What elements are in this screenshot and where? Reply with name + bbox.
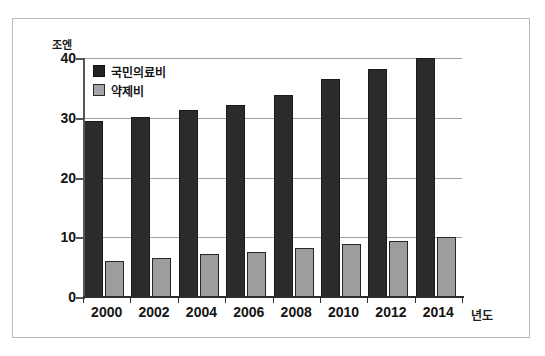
bar-national-medical-expense	[321, 79, 340, 297]
x-axis-line	[83, 296, 464, 298]
bar-drug-expense	[437, 237, 456, 297]
y-tick-mark	[76, 297, 83, 299]
y-tick-label: 40	[46, 51, 76, 65]
chart-legend: 국민의료비 약제비	[93, 62, 198, 100]
bar-national-medical-expense	[274, 95, 293, 297]
y-tick: 10	[36, 230, 76, 244]
legend-swatch-icon	[93, 65, 105, 77]
x-tick-mark	[130, 297, 131, 303]
chart-figure: 조엔 년도 국민의료비 약제비 010203040200020022004200…	[0, 0, 545, 356]
bar-drug-expense	[295, 248, 314, 297]
x-tick-label: 2012	[366, 304, 416, 320]
legend-label: 약제비	[111, 82, 144, 99]
bar-national-medical-expense	[368, 69, 387, 297]
y-tick-mark	[76, 58, 83, 60]
bar-drug-expense	[389, 241, 408, 297]
x-tick-label: 2010	[319, 304, 369, 320]
x-tick-mark	[320, 297, 321, 303]
y-tick-label: 30	[46, 111, 76, 125]
x-tick-label: 2008	[271, 304, 321, 320]
bar-national-medical-expense	[131, 117, 150, 297]
y-tick-label: 20	[46, 171, 76, 185]
x-tick-label: 2006	[224, 304, 274, 320]
x-tick-mark	[415, 297, 416, 303]
x-tick-label: 2004	[176, 304, 226, 320]
legend-swatch-icon	[93, 84, 105, 96]
x-tick-mark	[178, 297, 179, 303]
y-tick-label: 10	[46, 230, 76, 244]
legend-item-national-medical-expense: 국민의료비	[93, 62, 198, 80]
bar-national-medical-expense	[226, 105, 245, 297]
x-tick-mark	[367, 297, 368, 303]
bar-drug-expense	[152, 258, 171, 297]
x-tick-label: 2014	[413, 304, 463, 320]
legend-item-drug-expense: 약제비	[93, 81, 198, 99]
bar-drug-expense	[247, 252, 266, 297]
y-tick-label: 0	[46, 290, 76, 304]
y-tick: 30	[36, 111, 76, 125]
x-tick-mark	[462, 297, 463, 303]
x-tick-mark	[225, 297, 226, 303]
y-tick: 20	[36, 171, 76, 185]
x-tick-mark	[83, 297, 84, 303]
y-tick: 40	[36, 51, 76, 65]
x-tick-mark	[273, 297, 274, 303]
y-gridline	[83, 58, 462, 59]
y-axis-line	[83, 58, 85, 299]
bar-national-medical-expense	[84, 121, 103, 297]
bar-national-medical-expense	[179, 110, 198, 297]
bar-drug-expense	[200, 254, 219, 297]
bar-drug-expense	[342, 244, 361, 297]
y-tick: 0	[36, 290, 76, 304]
legend-label: 국민의료비	[111, 63, 166, 80]
x-tick-label: 2002	[129, 304, 179, 320]
bar-drug-expense	[105, 261, 124, 297]
x-tick-label: 2000	[82, 304, 132, 320]
y-tick-mark	[76, 237, 83, 239]
x-axis-title: 년도	[471, 306, 493, 323]
y-tick-mark	[76, 118, 83, 120]
bar-national-medical-expense	[416, 58, 435, 297]
y-tick-mark	[76, 178, 83, 180]
